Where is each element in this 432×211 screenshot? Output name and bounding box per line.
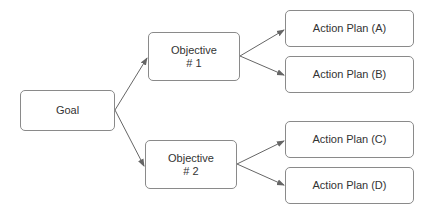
node-objective-2[interactable]: Objective # 2 — [145, 140, 237, 189]
node-goal-label: Goal — [56, 104, 79, 117]
node-objective-2-line2: # 2 — [168, 165, 214, 178]
node-action-plan-b-label: Action Plan (B) — [313, 68, 386, 81]
edge-objective1-actionB — [240, 56, 284, 75]
node-action-plan-a-label: Action Plan (A) — [313, 22, 386, 35]
node-action-plan-c[interactable]: Action Plan (C) — [285, 121, 414, 158]
node-objective-1-line1: Objective — [171, 44, 217, 57]
node-objective-1-line2: # 1 — [171, 57, 217, 70]
node-action-plan-c-label: Action Plan (C) — [313, 133, 387, 146]
node-objective-1[interactable]: Objective # 1 — [148, 32, 240, 81]
node-action-plan-d-label: Action Plan (D) — [313, 179, 387, 192]
edge-objective2-actionC — [237, 141, 284, 164]
edge-objective2-actionD — [237, 164, 284, 185]
edge-goal-objective2 — [115, 110, 144, 166]
edge-objective1-actionA — [240, 30, 284, 56]
node-objective-2-line1: Objective — [168, 152, 214, 165]
node-goal[interactable]: Goal — [20, 90, 115, 131]
node-action-plan-d[interactable]: Action Plan (D) — [285, 167, 414, 204]
node-action-plan-b[interactable]: Action Plan (B) — [285, 56, 414, 93]
node-action-plan-a[interactable]: Action Plan (A) — [285, 10, 414, 47]
edge-goal-objective1 — [115, 58, 147, 110]
